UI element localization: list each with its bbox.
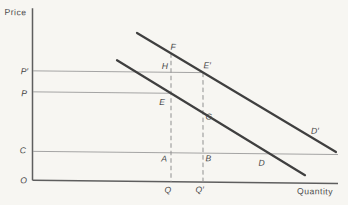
x-axis-label: Quantity	[297, 186, 333, 196]
y-axis-label: Price	[5, 7, 27, 17]
price-line-p	[33, 92, 171, 93]
origin-label: O	[20, 175, 27, 185]
cost-line-c	[33, 151, 338, 154]
tick-q-prime: Q′	[196, 185, 205, 195]
point-d: D	[259, 158, 265, 168]
tick-c: C	[20, 145, 27, 155]
point-g: G	[206, 111, 213, 121]
point-e-prime: E′	[204, 60, 212, 70]
tick-q: Q	[165, 185, 172, 195]
point-a: A	[160, 153, 167, 163]
point-b: B	[206, 153, 212, 163]
curve-label-d-prime: D′	[311, 126, 319, 136]
demand-shift-diagram: Price Quantity O P′ P C Q Q′ F H E′ E G …	[0, 0, 348, 205]
point-e: E	[159, 97, 165, 107]
price-line-p-prime	[33, 71, 202, 73]
tick-p: P	[21, 88, 27, 98]
x-axis	[33, 180, 339, 183]
tick-p-prime: P′	[21, 66, 29, 76]
point-f: F	[171, 42, 177, 52]
point-h: H	[162, 61, 169, 71]
diagram-canvas: Price Quantity O P′ P C Q Q′ F H E′ E G …	[0, 0, 348, 205]
